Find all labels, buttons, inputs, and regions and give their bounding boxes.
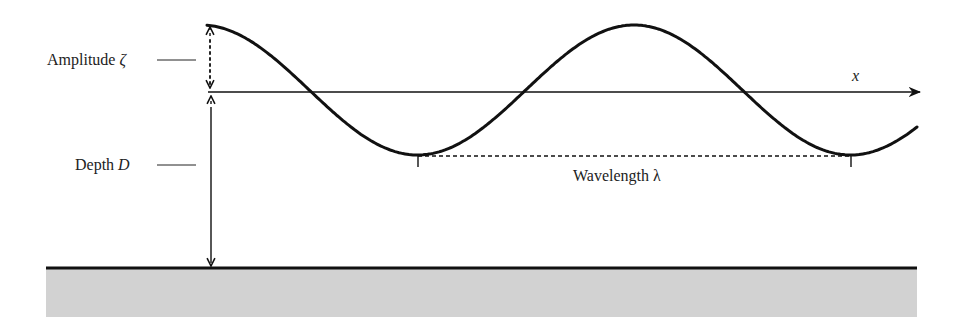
seabed-fill xyxy=(46,268,917,317)
x-axis-label: x xyxy=(851,67,859,84)
wavelength-label: Wavelength λ xyxy=(573,167,661,185)
amplitude-label: Amplitude ζ xyxy=(47,51,127,69)
wave-surface-curve xyxy=(207,25,917,155)
depth-label: Depth D xyxy=(75,156,130,174)
wave-diagram: x Amplitude ζ Depth D Wavelength λ xyxy=(0,0,961,317)
